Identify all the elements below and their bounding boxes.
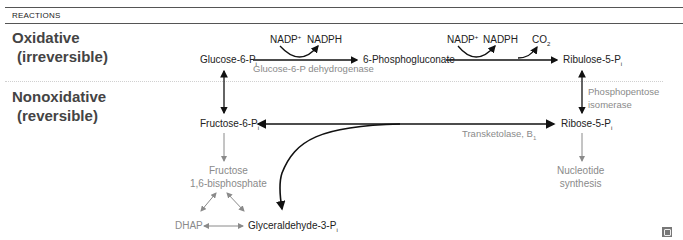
enzyme-transketolase: Transketolase, B1 [462, 128, 536, 141]
enzyme-phosphopentose-isomerase: Phosphopentose isomerase [588, 85, 659, 111]
cofactor-nadp-2: NADP+ [447, 34, 478, 45]
node-nucleotide-synthesis: Nucleotide synthesis [557, 164, 604, 190]
expand-image-icon[interactable] [662, 227, 672, 237]
node-6-phosphogluconate: 6-Phosphogluconate [363, 54, 455, 65]
node-fructose-6-p: Fructose-6-Pi [200, 118, 259, 131]
cofactor-co2: CO2 [532, 34, 550, 47]
node-glyceraldehyde-3-p: Glyceraldehyde-3-Pi [248, 220, 338, 233]
node-glucose-6-p: Glucose-6-Pi [200, 54, 257, 67]
node-ribulose-5-p: Ribulose-5-Pi [563, 54, 622, 67]
node-ribose-5-p: Ribose-5-Pi [561, 118, 612, 131]
node-dhap: DHAP [175, 220, 203, 231]
cofactor-nadph-1: NADPH [307, 34, 342, 45]
cofactor-nadp-1: NADP+ [270, 34, 301, 45]
node-fructose-1-6-bisphosphate: Fructose 1,6-bisphosphate [190, 164, 267, 190]
cofactor-nadph-2: NADPH [483, 34, 518, 45]
enzyme-g6pd: Glucose-6-P dehydrogenase [253, 63, 374, 74]
